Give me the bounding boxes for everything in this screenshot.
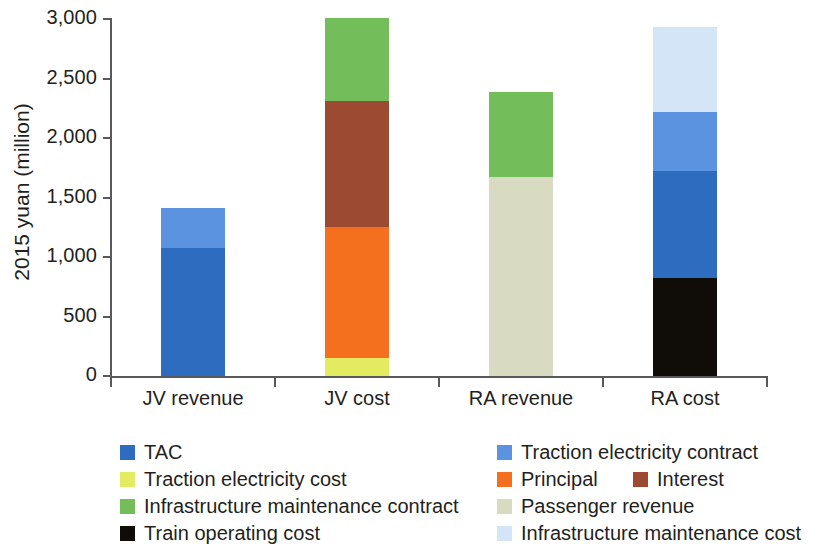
bar-ra-cost	[653, 27, 717, 376]
y-axis-tick-label: 2,000	[46, 125, 97, 148]
legend-swatch-icon	[497, 472, 512, 487]
legend-swatch-icon	[633, 472, 648, 487]
bar-segment-traction-electricity-contract	[161, 208, 225, 248]
y-axis-tick	[103, 197, 111, 199]
bar-segment-tac	[161, 248, 225, 376]
legend-swatch-icon	[120, 499, 135, 514]
y-axis-tick	[103, 375, 111, 377]
stacked-bar-chart-figure: 2015 yuan (million) 05001,0001,5002,0002…	[0, 0, 824, 552]
legend-item-interest[interactable]: Interest	[633, 469, 724, 489]
legend-label: Interest	[657, 469, 724, 489]
y-axis-tick-label: 2,500	[46, 66, 97, 89]
legend-item-infrastructure-maintenance-contract[interactable]: Infrastructure maintenance contract	[120, 496, 459, 516]
x-axis-label-jv-cost: JV cost	[275, 387, 439, 410]
y-axis-tick	[103, 18, 111, 20]
legend-item-passenger-revenue[interactable]: Passenger revenue	[497, 496, 694, 516]
legend-label: Principal	[521, 469, 598, 489]
legend-item-tac[interactable]: TAC	[120, 442, 183, 462]
bar-segment-interest	[325, 101, 389, 227]
legend-swatch-icon	[497, 445, 512, 460]
bar-segment-tac	[653, 171, 717, 278]
bar-segment-infrastructure-maintenance-contract	[325, 18, 389, 101]
y-axis-tick-label: 0	[86, 363, 97, 386]
bar-ra-revenue	[489, 92, 553, 376]
legend-label: Infrastructure maintenance contract	[144, 496, 459, 516]
bar-segment-train-operating-cost	[653, 278, 717, 376]
legend-item-train-operating-cost[interactable]: Train operating cost	[120, 523, 320, 543]
y-axis-tick-label: 3,000	[46, 6, 97, 29]
y-axis-tick-label: 1,000	[46, 244, 97, 267]
legend-label: Train operating cost	[144, 523, 320, 543]
x-axis-tick	[110, 378, 112, 387]
y-axis-tick	[103, 256, 111, 258]
bar-jv-revenue	[161, 208, 225, 376]
legend-item-principal[interactable]: Principal	[497, 469, 598, 489]
x-axis-tick	[274, 378, 276, 387]
legend-swatch-icon	[497, 499, 512, 514]
x-axis-label-ra-revenue: RA revenue	[439, 387, 603, 410]
bar-segment-passenger-revenue	[489, 177, 553, 376]
legend-label: Passenger revenue	[521, 496, 694, 516]
legend-item-traction-electricity-cost[interactable]: Traction electricity cost	[120, 469, 347, 489]
legend-swatch-icon	[120, 472, 135, 487]
bar-segment-infrastructure-maintenance-cost	[653, 27, 717, 111]
y-axis-title: 2015 yuan (million)	[10, 0, 34, 392]
legend-label: Traction electricity contract	[521, 442, 758, 462]
y-axis-tick-label: 500	[63, 304, 97, 327]
legend-swatch-icon	[120, 526, 135, 541]
legend-label: Traction electricity cost	[144, 469, 347, 489]
legend-swatch-icon	[497, 526, 512, 541]
y-axis-tick	[103, 78, 111, 80]
x-axis-label-jv-revenue: JV revenue	[111, 387, 275, 410]
bar-segment-infrastructure-maintenance-contract	[489, 92, 553, 177]
x-axis-tick	[766, 378, 768, 387]
y-axis-tick	[103, 316, 111, 318]
legend-swatch-icon	[120, 445, 135, 460]
x-axis-tick	[438, 378, 440, 387]
y-axis-tick	[103, 137, 111, 139]
legend-label: TAC	[144, 442, 183, 462]
legend-item-traction-electricity-contract[interactable]: Traction electricity contract	[497, 442, 758, 462]
x-axis-label-ra-cost: RA cost	[603, 387, 767, 410]
bar-segment-traction-electricity-cost	[325, 358, 389, 376]
plot-area	[111, 19, 767, 376]
bar-segment-principal	[325, 227, 389, 358]
chart-legend: TACTraction electricity costInfrastructu…	[0, 432, 824, 552]
y-axis-tick-label: 1,500	[46, 185, 97, 208]
legend-label: Infrastructure maintenance cost	[521, 523, 801, 543]
bar-segment-traction-electricity-contract	[653, 112, 717, 172]
bar-jv-cost	[325, 18, 389, 376]
legend-item-infrastructure-maintenance-cost[interactable]: Infrastructure maintenance cost	[497, 523, 801, 543]
x-axis-tick	[602, 378, 604, 387]
